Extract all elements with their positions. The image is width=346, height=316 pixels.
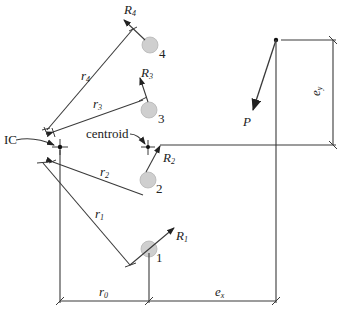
ic-hatch	[37, 162, 48, 163]
R2-label: R2	[162, 150, 175, 166]
centroid-point	[146, 145, 150, 149]
ic-leader	[16, 139, 54, 145]
r2-label: r2	[100, 164, 109, 180]
bolt-1-number: 1	[156, 250, 163, 265]
r3-label: r3	[93, 96, 102, 112]
bolt-3-number: 3	[158, 111, 165, 126]
r1-label: r1	[95, 206, 104, 222]
centroid-label: centroid	[86, 126, 129, 141]
ic-point	[58, 145, 62, 149]
bolt-group-diagram: IC centroid 4 3 2 1 R4 R3 R2 R1 r4 r3 r2…	[0, 0, 346, 316]
ic-hatch	[42, 128, 50, 130]
r0-label: r0	[99, 284, 108, 300]
r4-label: r4	[81, 68, 90, 84]
load-vector	[253, 40, 276, 110]
R1-tick	[125, 263, 136, 267]
R4-vector	[124, 20, 145, 40]
load-label: P	[242, 114, 251, 129]
R3-label: R3	[140, 65, 153, 81]
bolt-2-number: 2	[156, 181, 163, 196]
R4-label: R4	[123, 2, 136, 18]
centroid-leader	[130, 134, 145, 144]
bolt-4-number: 4	[159, 46, 166, 61]
ex-label: ex	[215, 284, 225, 300]
ey-label: ey	[308, 86, 324, 96]
bolt-3	[141, 102, 157, 118]
r1-line	[43, 163, 130, 265]
R1-label: R1	[175, 228, 188, 244]
R4-tick	[129, 27, 137, 31]
ic-label: IC	[4, 132, 17, 147]
ic-hatch	[52, 128, 55, 137]
bolt-2	[140, 172, 156, 188]
R1-vector	[130, 228, 174, 265]
